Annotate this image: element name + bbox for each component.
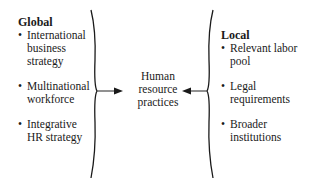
bullet-icon: • [221,42,225,55]
item-line: Broader [230,118,309,131]
bullet-icon: • [18,118,22,131]
item-line: workforce [27,93,98,106]
global-column: Global • International business strategy… [18,16,98,144]
bullet-icon: • [18,29,22,42]
bullet-icon: • [221,118,225,131]
local-item-broader-institutions: • Broader institutions [221,118,309,144]
center-line: practices [128,96,188,109]
local-item-legal-requirements: • Legal requirements [221,80,309,106]
item-line: pool [230,55,309,68]
item-line: business [27,42,98,55]
bullet-icon: • [18,80,22,93]
item-line: Relevant labor [230,42,309,55]
item-line: Legal [230,80,309,93]
center-line: resource [128,83,188,96]
item-line: requirements [230,93,309,106]
item-line: Integrative [27,118,98,131]
center-line: Human [128,70,188,83]
local-heading: Local [221,29,309,42]
local-item-relevant-labor-pool: • Relevant labor pool [221,42,309,68]
arrow-right-icon [114,88,123,95]
item-line: Multinational [27,80,98,93]
item-line: strategy [27,55,98,68]
item-line: International [27,29,98,42]
bullet-icon: • [221,80,225,93]
hr-practices-node: Human resource practices [128,70,188,109]
item-line: institutions [230,131,309,144]
local-column: Local • Relevant labor pool • Legal requ… [221,29,309,144]
item-line: HR strategy [27,131,98,144]
global-item-multinational-workforce: • Multinational workforce [18,80,98,106]
global-item-integrative-hr-strategy: • Integrative HR strategy [18,118,98,144]
global-item-international-business-strategy: • International business strategy [18,29,98,68]
global-heading: Global [18,16,98,29]
left-curly-brace-icon [207,10,213,178]
